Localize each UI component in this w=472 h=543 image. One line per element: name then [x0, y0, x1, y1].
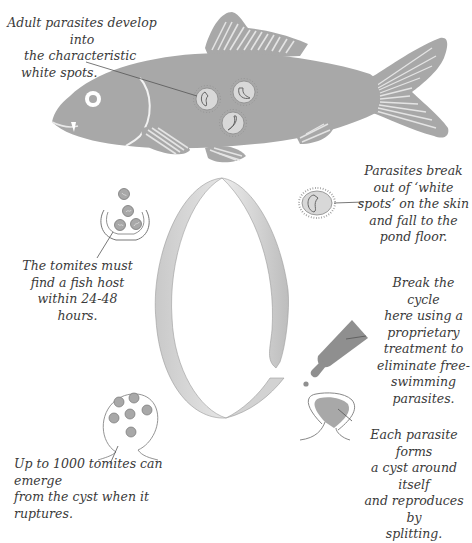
caption-line: find a fish host [20, 275, 135, 292]
caption-cyst-forms: Each parasite forms a cyst around itself… [356, 427, 472, 543]
caption-break-out: Parasites break out of ‘white spots’ on … [355, 163, 472, 246]
caption-tomites-host: The tomites must find a fish host within… [20, 258, 135, 324]
ruptured-cyst-icon [98, 393, 158, 464]
caption-tomites-emerge: Up to 1000 tomites can emerge from the c… [14, 456, 204, 522]
dropper-bottle-icon [303, 320, 368, 387]
caption-line: splitting. [356, 526, 472, 543]
caption-line: within 24-48 [20, 291, 135, 308]
caption-line: and reproduces by [356, 493, 472, 526]
caption-adult-parasites: Adult parasites develop into the charact… [6, 15, 158, 81]
caption-line: spots’ on the skin [355, 196, 472, 213]
caption-line: pond floor. [355, 229, 472, 246]
caption-line: out of ‘white [355, 180, 472, 197]
caption-line: Adult parasites develop into [6, 15, 158, 48]
caption-line: treatment to [375, 341, 472, 358]
caption-line: and fall to the [355, 213, 472, 230]
ciliated-parasite-icon [299, 188, 335, 218]
caption-line: The tomites must [20, 258, 135, 275]
caption-line: swimming [375, 374, 472, 391]
lifecycle-ribbon-icon [155, 178, 288, 418]
caption-line: hours. [20, 308, 135, 325]
caption-line: here using a [375, 308, 472, 325]
caption-line: from the cyst when it ruptures. [14, 489, 204, 522]
caption-line: Break the cycle [375, 275, 472, 308]
caption-line: Each parasite forms [356, 427, 472, 460]
caption-break-cycle: Break the cycle here using a proprietary… [375, 275, 472, 407]
caption-line: parasites. [375, 391, 472, 408]
caption-line: a cyst around itself [356, 460, 472, 493]
caption-line: the characteristic [6, 48, 158, 65]
caption-line: Parasites break [355, 163, 472, 180]
caption-line: Up to 1000 tomites can emerge [14, 456, 204, 489]
leader-line [97, 232, 113, 258]
caption-line: white spots. [6, 65, 158, 82]
caption-line: proprietary [375, 325, 472, 342]
caption-line: eliminate free- [375, 358, 472, 375]
tomites-icon [101, 189, 149, 241]
